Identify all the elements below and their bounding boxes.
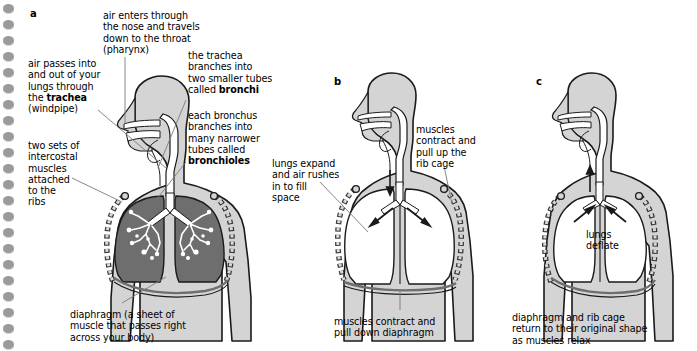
emphasised-term: bronchi: [219, 84, 259, 95]
panel-label-a: a: [30, 8, 37, 19]
panel-label-c: c: [536, 76, 542, 87]
label-text-run: each bronchus branches into many narrowe…: [188, 110, 260, 155]
label-nose-pharynx: air enters through the nose and travels …: [103, 10, 200, 55]
label-muscles-contract-ribs: muscles contract and pull up the rib cag…: [416, 124, 476, 169]
label-diaphragm: diaphragm (a sheet of muscle that passes…: [70, 309, 186, 343]
label-lungs-deflate: lungs deflate: [586, 229, 619, 252]
emphasised-term: bronchioles: [188, 155, 250, 166]
label-trachea: air passes into and out of your lungs th…: [28, 58, 100, 114]
panel-b-drawing: [338, 73, 473, 341]
label-return-original-shape: diaphragm and rib cage return to their o…: [512, 312, 647, 346]
figure-page: a b c air enters through the nose and tr…: [0, 0, 697, 351]
emphasised-term: trachea: [46, 92, 87, 103]
panel-label-b: b: [334, 76, 341, 87]
label-intercostal-muscles: two sets of intercostal muscles attached…: [28, 140, 79, 208]
label-text-run: (windpipe): [28, 103, 78, 114]
label-lungs-expand: lungs expand and air rushes in to fill s…: [272, 158, 339, 203]
label-bronchi: the trachea branches into two smaller tu…: [188, 50, 272, 95]
label-bronchioles: each bronchus branches into many narrowe…: [188, 110, 260, 166]
panel-c-drawing: [544, 73, 673, 341]
label-muscles-pull-diaphragm: muscles contract and pull down diaphragm: [334, 316, 435, 339]
